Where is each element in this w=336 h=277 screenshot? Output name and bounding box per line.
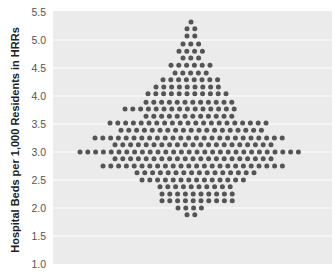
data-point <box>222 100 227 105</box>
data-point <box>183 114 188 119</box>
data-point <box>185 91 190 96</box>
data-point <box>189 20 194 25</box>
data-point <box>171 136 176 141</box>
data-point <box>117 150 122 155</box>
data-point <box>222 192 227 197</box>
y-tick-label: 3.0 <box>31 146 46 158</box>
data-point <box>241 164 246 169</box>
data-point <box>249 136 254 141</box>
data-point <box>205 170 210 175</box>
data-point <box>198 114 203 119</box>
data-point <box>186 120 191 125</box>
data-point <box>214 114 219 119</box>
data-point <box>191 198 196 203</box>
y-axis-ticks: 1.01.52.02.53.03.54.04.55.05.5 <box>31 6 46 270</box>
data-point <box>233 178 238 183</box>
data-point <box>130 106 135 111</box>
data-point <box>158 170 163 175</box>
data-point <box>163 178 168 183</box>
data-point <box>208 85 213 90</box>
y-tick-label: 5.0 <box>31 34 46 46</box>
data-point <box>186 136 191 141</box>
data-point <box>253 156 258 161</box>
data-point <box>165 128 170 133</box>
data-point <box>245 156 250 161</box>
data-point <box>177 49 182 54</box>
data-point <box>200 63 205 68</box>
data-point <box>251 128 256 133</box>
data-point <box>248 120 253 125</box>
data-point <box>120 142 125 147</box>
data-point <box>192 212 197 217</box>
beeswarm-chart: 1.01.52.02.53.03.54.04.55.05.5 Hospital … <box>0 0 336 277</box>
data-point <box>151 114 156 119</box>
data-point <box>256 136 261 141</box>
data-point <box>185 106 190 111</box>
data-point <box>146 106 151 111</box>
data-point <box>160 198 165 203</box>
data-point <box>140 178 145 183</box>
data-point <box>183 100 188 105</box>
data-point <box>119 128 124 133</box>
data-point <box>206 100 211 105</box>
data-point <box>171 164 176 169</box>
data-point <box>192 34 197 39</box>
data-point <box>197 170 202 175</box>
data-point <box>188 55 193 60</box>
data-point <box>174 170 179 175</box>
data-point <box>154 120 159 125</box>
data-point <box>264 136 269 141</box>
data-point <box>233 164 238 169</box>
data-point <box>185 85 190 90</box>
data-point <box>113 156 118 161</box>
data-point <box>167 198 172 203</box>
data-point <box>192 63 197 68</box>
data-point <box>171 150 176 155</box>
y-tick-label: 1.0 <box>31 258 46 270</box>
data-point <box>241 150 246 155</box>
data-point <box>142 170 147 175</box>
data-point <box>144 156 149 161</box>
data-point <box>222 198 227 203</box>
data-point <box>191 206 196 211</box>
data-point <box>156 150 161 155</box>
data-point <box>192 26 197 31</box>
data-point <box>158 128 163 133</box>
data-point <box>183 192 188 197</box>
data-point <box>202 164 207 169</box>
data-point <box>206 192 211 197</box>
data-point <box>152 142 157 147</box>
data-point <box>269 142 274 147</box>
data-point <box>200 91 205 96</box>
data-point <box>168 77 173 82</box>
data-point <box>187 150 192 155</box>
data-point <box>225 136 230 141</box>
data-point <box>184 49 189 54</box>
data-point <box>190 100 195 105</box>
data-point <box>192 77 197 82</box>
data-point <box>200 49 205 54</box>
data-point <box>132 164 137 169</box>
data-point <box>201 106 206 111</box>
data-point <box>208 106 213 111</box>
data-point <box>131 120 136 125</box>
data-point <box>230 192 235 197</box>
data-point <box>159 142 164 147</box>
data-point <box>128 156 133 161</box>
data-point <box>217 120 222 125</box>
data-point <box>123 120 128 125</box>
data-point <box>173 71 178 76</box>
data-point <box>165 184 170 189</box>
data-point <box>134 128 139 133</box>
y-tick-label: 4.5 <box>31 62 46 74</box>
data-point <box>210 164 215 169</box>
data-point <box>108 136 113 141</box>
data-point <box>158 184 163 189</box>
data-point <box>177 106 182 111</box>
data-point <box>78 150 83 155</box>
data-point <box>140 164 145 169</box>
data-point <box>144 142 149 147</box>
data-point <box>204 184 209 189</box>
data-point <box>85 150 90 155</box>
data-point <box>176 206 181 211</box>
